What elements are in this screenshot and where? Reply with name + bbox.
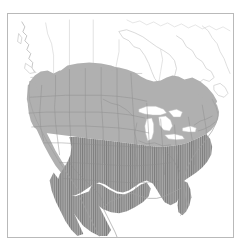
map-frame [7,13,234,238]
figure-root: North America species range map [0,0,242,246]
range-map-svg [8,14,233,237]
